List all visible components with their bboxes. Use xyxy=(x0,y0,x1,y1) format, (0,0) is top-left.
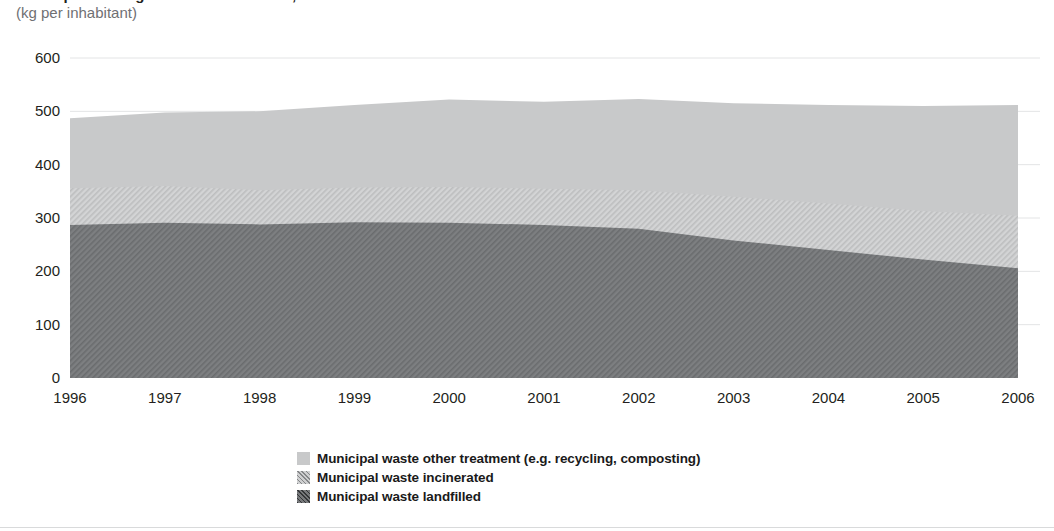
legend-swatch-hatched-dark-gray xyxy=(297,490,310,503)
x-axis-tick: 2006 xyxy=(983,389,1053,406)
chart-series-areas xyxy=(70,99,1018,378)
y-axis-tick: 100 xyxy=(14,316,60,333)
legend-item[interactable]: Municipal waste landfilled xyxy=(297,488,700,505)
x-axis-tick: 2001 xyxy=(509,389,579,406)
legend-item-label: Municipal waste landfilled xyxy=(317,489,481,504)
legend-item[interactable]: Municipal waste other treatment (e.g. re… xyxy=(297,450,700,467)
chart-legend: Municipal waste other treatment (e.g. re… xyxy=(297,450,700,505)
y-axis-tick: 0 xyxy=(14,369,60,386)
y-axis-tick: 500 xyxy=(14,102,60,119)
legend-item[interactable]: Municipal waste incinerated xyxy=(297,469,700,486)
y-axis-tick: 600 xyxy=(14,49,60,66)
x-axis-tick: 2005 xyxy=(888,389,958,406)
legend-swatch-hatched-light-gray xyxy=(297,471,310,484)
y-axis-tick: 200 xyxy=(14,262,60,279)
bottom-divider xyxy=(0,527,1054,528)
legend-item-label: Municipal waste other treatment (e.g. re… xyxy=(317,451,700,466)
x-axis-tick: 2003 xyxy=(699,389,769,406)
x-axis-tick: 1998 xyxy=(225,389,295,406)
x-axis-tick: 2004 xyxy=(793,389,863,406)
x-axis-tick: 2000 xyxy=(414,389,484,406)
x-axis-tick: 1999 xyxy=(319,389,389,406)
x-axis-tick: 1996 xyxy=(35,389,105,406)
x-axis-tick: 2002 xyxy=(604,389,674,406)
y-axis-tick: 300 xyxy=(14,209,60,226)
x-axis-tick: 1997 xyxy=(130,389,200,406)
legend-item-label: Municipal waste incinerated xyxy=(317,470,494,485)
y-axis-tick: 400 xyxy=(14,156,60,173)
legend-swatch-solid-light-gray xyxy=(297,452,310,465)
